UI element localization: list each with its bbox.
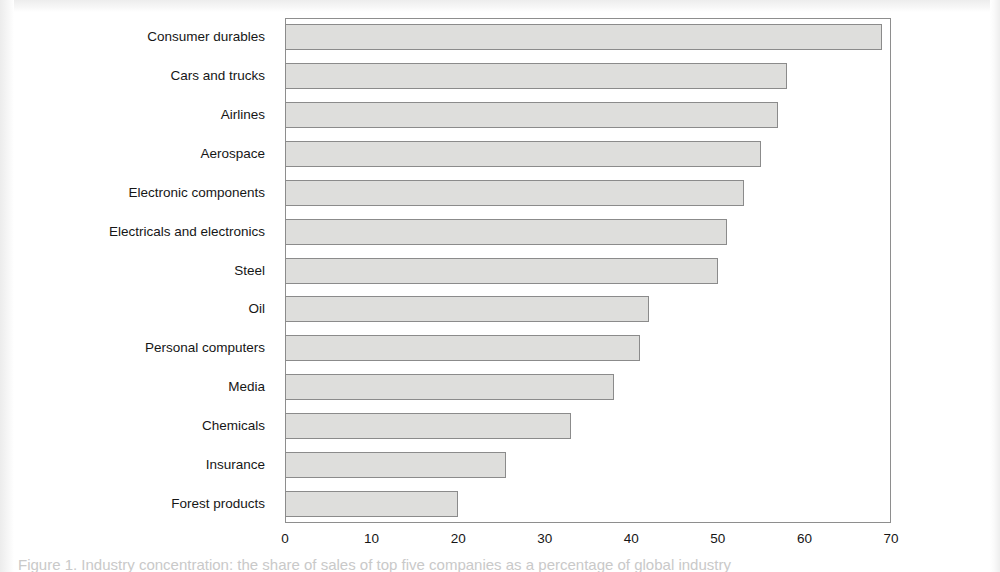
bar [285,180,744,206]
bar-row [285,452,891,478]
bar [285,141,761,167]
figure-caption: Figure 1. Industry concentration: the sh… [18,556,982,572]
value-tick-label: 70 [883,532,898,546]
bar-row [285,180,891,206]
bar [285,335,640,361]
category-label: Chemicals [202,419,265,433]
bar-row [285,296,891,322]
category-label: Aerospace [200,147,265,161]
bar [285,102,778,128]
bar-row [285,102,891,128]
category-label: Steel [234,264,265,278]
value-tick-label: 20 [451,532,466,546]
bar [285,258,718,284]
bar-row [285,63,891,89]
bar [285,63,787,89]
bar-row [285,491,891,517]
category-axis-labels: Consumer durablesCars and trucksAirlines… [0,18,275,523]
bar-row [285,258,891,284]
scanned-page: Consumer durablesCars and trucksAirlines… [0,0,1000,572]
value-tick-label: 0 [281,532,289,546]
bar-row [285,374,891,400]
bar-row [285,413,891,439]
bar-row [285,24,891,50]
category-label: Consumer durables [147,30,265,44]
category-label: Electronic components [128,186,265,200]
bar [285,219,727,245]
value-tick-label: 50 [710,532,725,546]
value-tick-label: 40 [624,532,639,546]
bar [285,296,649,322]
value-tick-label: 30 [537,532,552,546]
value-tick-label: 10 [364,532,379,546]
bar-row [285,335,891,361]
bar [285,413,571,439]
category-label: Oil [249,302,266,316]
value-tick-label: 60 [797,532,812,546]
category-label: Insurance [206,458,265,472]
bar [285,491,458,517]
category-label: Forest products [171,497,265,511]
bar [285,452,506,478]
bars-layer [285,18,891,523]
bar [285,374,614,400]
category-label: Cars and trucks [170,69,265,83]
category-label: Electricals and electronics [109,225,265,239]
category-label: Personal computers [145,341,265,355]
bar-row [285,219,891,245]
bar [285,24,882,50]
category-label: Airlines [221,108,265,122]
category-label: Media [228,380,265,394]
bar-chart-figure: Consumer durablesCars and trucksAirlines… [0,0,1000,572]
bar-row [285,141,891,167]
